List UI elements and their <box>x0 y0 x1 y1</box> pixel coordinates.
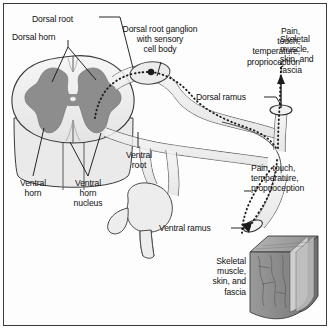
skeletal-muscle-block <box>250 236 318 319</box>
label-pain-touch-lower: Pain, touch, temperature, proprioception <box>251 163 329 194</box>
label-skeletal-upper: Skeletal muscle, skin, and fascia <box>280 34 330 75</box>
label-ventral-horn-nucleus: Ventral horn nucleus <box>60 178 116 209</box>
label-ventral-horn: Ventral horn <box>6 178 60 198</box>
label-ventral-ramus: Ventral ramus <box>159 223 233 233</box>
dorsal-ramus-up-arrow <box>277 74 285 108</box>
label-dorsal-horn: Dorsal horn <box>12 32 88 42</box>
label-skeletal-lower: Skeletal muscle, skin, and fascia <box>186 256 246 297</box>
label-ventral-root: Ventral root <box>113 150 165 170</box>
label-dorsal-ramus: Dorsal ramus <box>196 92 266 102</box>
label-dorsal-root: Dorsal root <box>32 14 102 24</box>
label-dorsal-root-ganglion: Dorsal root ganglion with sensory cell b… <box>110 24 210 55</box>
figure-root: Dorsal root Dorsal horn Dorsal root gang… <box>0 0 330 329</box>
